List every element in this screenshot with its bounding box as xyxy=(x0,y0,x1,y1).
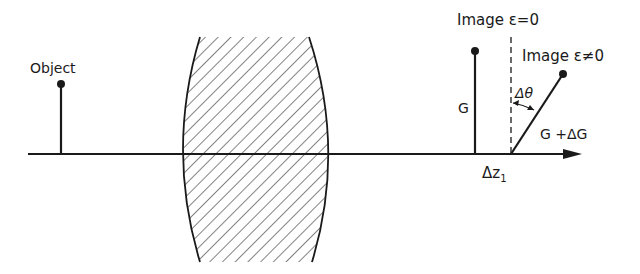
object-arrow xyxy=(57,80,65,154)
height-G-dG-label: G +ΔG xyxy=(540,126,587,142)
diagram-canvas: Object Image ε=0 G Image ε≠0 Δθ G +ΔG Δz… xyxy=(0,0,640,274)
delta-theta-label: Δθ xyxy=(514,85,534,101)
optical-diagram: Object Image ε=0 G Image ε≠0 Δθ G +ΔG Δz… xyxy=(0,0,640,274)
image-eps0-arrow xyxy=(471,47,479,154)
delta-theta-arc xyxy=(513,100,534,110)
object-label: Object xyxy=(30,60,76,76)
height-G-label: G xyxy=(458,100,469,116)
image-epsne0-label: Image ε≠0 xyxy=(522,47,604,65)
delta-z-label: Δz1 xyxy=(482,164,507,184)
lens xyxy=(150,30,370,270)
image-eps0-label: Image ε=0 xyxy=(457,11,539,29)
